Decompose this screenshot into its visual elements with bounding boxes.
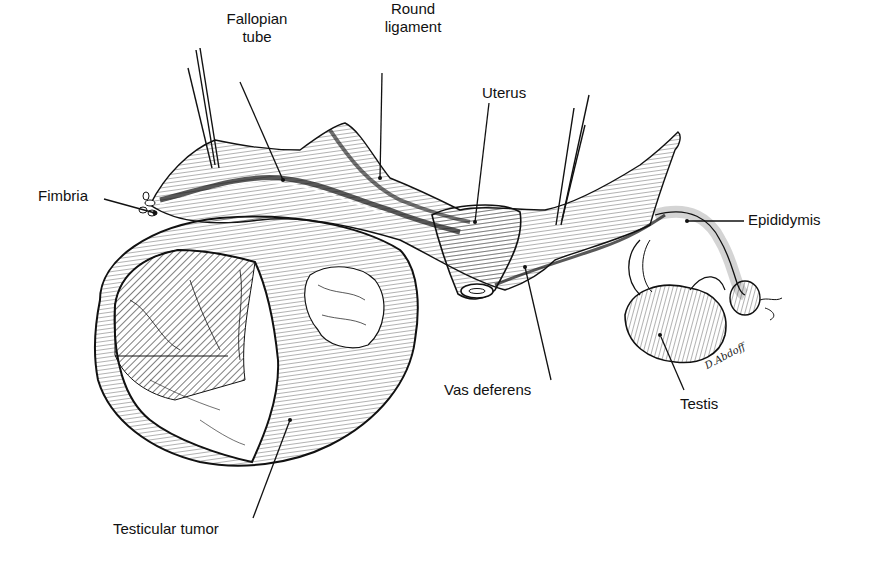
leader-vas-deferens: [525, 267, 551, 380]
label-testis: Testis: [680, 395, 718, 413]
leader-uterus: [475, 103, 489, 222]
label-round-ligament: Round ligament: [373, 0, 453, 36]
epididymis-drawing: [655, 212, 745, 295]
label-fallopian-tube: Fallopian tube: [212, 10, 302, 46]
label-fallopian-tube-line2: tube: [212, 28, 302, 46]
anatomy-illustration: Fallopian tube Round ligament Uterus Fim…: [0, 0, 875, 565]
label-testicular-tumor: Testicular tumor: [113, 520, 219, 538]
label-fallopian-tube-line1: Fallopian: [212, 10, 302, 28]
label-epididymis: Epididymis: [748, 211, 821, 229]
label-fimbria: Fimbria: [38, 187, 88, 205]
label-uterus: Uterus: [482, 84, 526, 102]
label-round-ligament-line2: ligament: [373, 18, 453, 36]
testicular-tumor-drawing: [95, 217, 418, 466]
label-round-ligament-line1: Round: [373, 0, 453, 18]
testis-drawing: [625, 277, 726, 363]
illustration-drawing: [0, 0, 875, 565]
label-vas-deferens: Vas deferens: [444, 381, 531, 399]
leader-round-ligament: [380, 73, 382, 178]
